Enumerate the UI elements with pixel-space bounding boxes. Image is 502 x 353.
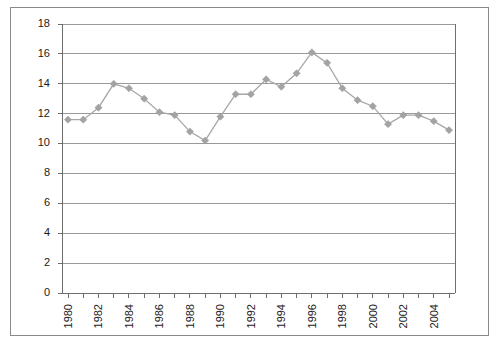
y-tick-label: 2 <box>44 256 50 268</box>
x-tick-label: 1986 <box>153 304 165 328</box>
x-tick-label: 1998 <box>336 304 348 328</box>
chart-figure: 024681012141618 198019821984198619881990… <box>0 0 502 353</box>
y-axis <box>62 24 455 293</box>
gridlines-group <box>62 24 455 293</box>
data-point-markers <box>64 49 452 144</box>
x-tick-label: 1982 <box>92 304 104 328</box>
data-point-marker <box>64 116 71 123</box>
y-tick-label: 10 <box>38 136 50 148</box>
data-series-line <box>68 52 449 140</box>
x-tick-marks <box>68 293 449 298</box>
x-tick-label: 1984 <box>123 304 135 328</box>
y-tick-label: 18 <box>38 17 50 29</box>
x-tick-label: 2002 <box>397 304 409 328</box>
x-tick-label: 2000 <box>367 304 379 328</box>
x-tick-label: 1990 <box>214 304 226 328</box>
data-point-marker <box>430 118 437 125</box>
y-tick-marks <box>58 24 62 293</box>
x-tick-label: 2004 <box>428 304 440 328</box>
y-tick-label: 4 <box>44 226 50 238</box>
y-tick-label: 14 <box>38 77 50 89</box>
x-tick-label: 1988 <box>184 304 196 328</box>
x-tick-label: 1994 <box>275 304 287 328</box>
y-tick-label: 16 <box>38 47 50 59</box>
line-chart: 024681012141618 198019821984198619881990… <box>0 0 502 353</box>
data-point-marker <box>125 85 132 92</box>
x-tick-label: 1992 <box>245 304 257 328</box>
data-point-marker <box>323 59 330 66</box>
series-polyline <box>68 52 449 140</box>
x-tick-label: 1996 <box>306 304 318 328</box>
y-tick-label: 12 <box>38 107 50 119</box>
y-tick-labels: 024681012141618 <box>38 17 50 298</box>
data-point-marker <box>445 127 452 134</box>
x-tick-label: 1980 <box>62 304 74 328</box>
y-tick-label: 6 <box>44 196 50 208</box>
data-point-marker <box>415 112 422 119</box>
x-tick-labels: 1980198219841986198819901992199419961998… <box>62 304 440 328</box>
data-point-marker <box>232 91 239 98</box>
data-point-marker <box>110 80 117 87</box>
y-tick-label: 8 <box>44 166 50 178</box>
y-tick-label: 0 <box>44 286 50 298</box>
data-point-marker <box>400 112 407 119</box>
caption-edge <box>0 345 502 353</box>
